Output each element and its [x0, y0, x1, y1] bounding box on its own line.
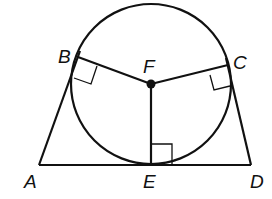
- label-c: C: [233, 52, 247, 73]
- right-angle-marker-c: [210, 75, 230, 90]
- center-point-f: [147, 80, 156, 89]
- label-e: E: [143, 171, 156, 192]
- diagram-svg: A B C D E F: [0, 0, 272, 199]
- label-d: D: [250, 171, 264, 192]
- right-angle-marker-b: [74, 66, 97, 84]
- segment-fb: [78, 57, 151, 84]
- segment-fc: [151, 65, 228, 84]
- segment-cd: [226, 58, 251, 165]
- label-f: F: [143, 56, 156, 77]
- label-b: B: [58, 46, 71, 67]
- label-a: A: [23, 171, 37, 192]
- geometry-diagram: A B C D E F: [0, 0, 272, 199]
